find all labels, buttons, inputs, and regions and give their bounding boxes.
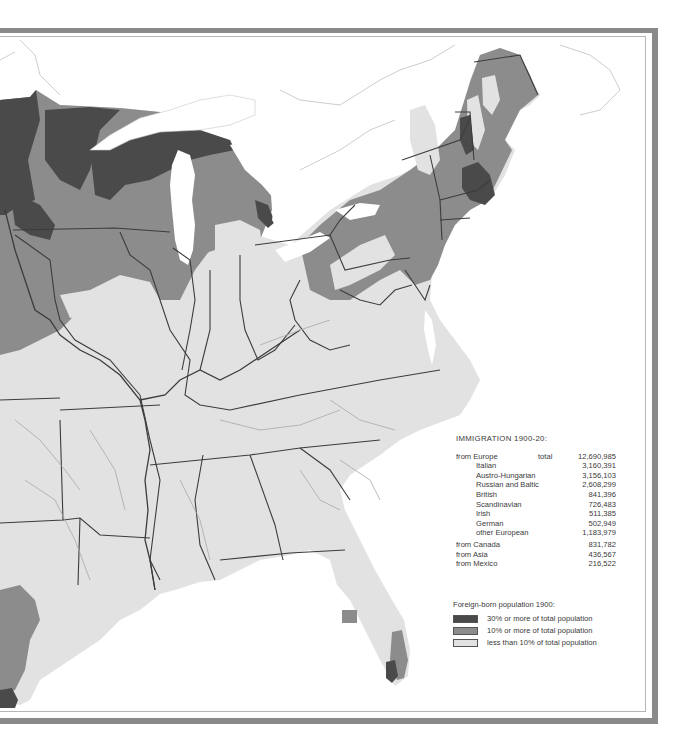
map-frame-right [652,28,658,724]
immigration-stats: IMMIGRATION 1900-20: from Europe total 1… [456,434,616,569]
legend-label: 30% or more of total population [487,614,593,623]
stat-total-label: total [538,452,552,462]
region-low-vermont [410,105,440,175]
stat-value: 2,608,299 [560,480,616,490]
stat-value: 502,949 [560,519,616,529]
stat-value: 726,483 [560,500,616,510]
stat-label: Irish [456,509,490,519]
stat-label: German [456,519,503,529]
map-legend: Foreign-born population 1900: 30% or mor… [453,600,597,649]
stat-value: 511,385 [560,509,616,519]
stat-label: from Canada [456,540,500,550]
stat-row-mexico: from Mexico216,522 [456,559,616,569]
stat-label: from Europe [456,452,498,462]
legend-item-low: less than 10% of total population [453,637,597,648]
stat-label: from Mexico [456,559,497,569]
stat-row-other-european: other European1,183,979 [456,528,616,538]
stat-value: 3,156,103 [560,471,616,481]
legend-item-medium: 10% or more of total population [453,625,597,636]
stat-label: Italian [456,461,496,471]
stat-value: 436,567 [560,550,616,560]
stat-label: Scandinavian [456,500,522,510]
stat-row-canada: from Canada831,782 [456,540,616,550]
stat-value: 1,183,979 [560,528,616,538]
legend-item-high: 30% or more of total population [453,613,597,624]
stats-title: IMMIGRATION 1900-20: [456,434,616,444]
stat-label: Austro-Hungarian [456,471,536,481]
legend-label: 10% or more of total population [487,626,593,635]
stat-value: 841,396 [560,490,616,500]
stat-value: 12,690,985 [560,452,616,462]
legend-title: Foreign-born population 1900: [453,600,597,609]
stat-value: 831,782 [560,540,616,550]
stat-row-german: German502,949 [456,519,616,529]
stat-row-irish: Irish511,385 [456,509,616,519]
stat-row-italian: Italian3,160,391 [456,461,616,471]
legend-swatch-high [453,615,478,623]
stat-row-asia: from Asia436,567 [456,550,616,560]
map-frame-bottom [0,718,658,724]
map-frame-top [0,28,658,33]
legend-swatch-low [453,639,478,647]
stat-row-austro-hungarian: Austro-Hungarian3,156,103 [456,471,616,481]
stat-label: Russian and Baltic [456,480,539,490]
stat-row-scandinavian: Scandinavian726,483 [456,500,616,510]
legend-label: less than 10% of total population [487,638,597,647]
region-medium-florida-west [342,610,357,623]
stat-label: other European [456,528,528,538]
stat-row-europe-total: from Europe total 12,690,985 [456,452,616,462]
stat-value: 216,522 [560,559,616,569]
stat-row-russian-baltic: Russian and Baltic2,608,299 [456,480,616,490]
stat-label: from Asia [456,550,488,560]
legend-swatch-medium [453,627,478,635]
stat-label: British [456,490,497,500]
stat-value: 3,160,391 [560,461,616,471]
stat-row-british: British841,396 [456,490,616,500]
